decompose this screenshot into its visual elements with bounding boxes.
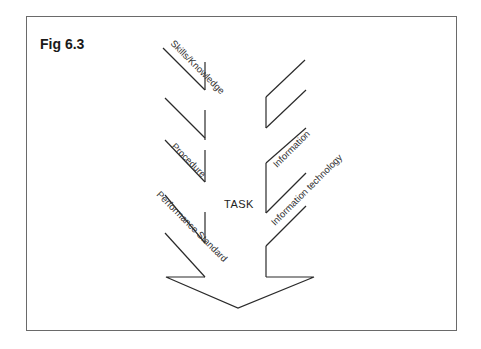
arrowhead: [166, 277, 314, 308]
arrow-lines: [163, 48, 314, 308]
label-information: Information: [271, 128, 312, 169]
task-arrow-diagram: Skills/Knowledge Procedure Performance S…: [0, 0, 481, 349]
right-diagonal-2: [266, 90, 306, 128]
right-diagonal-2b: [266, 97, 306, 128]
left-diagonal-2: [165, 98, 205, 138]
label-skills-knowledge: Skills/Knowledge: [169, 38, 228, 97]
label-performance-standard: Performance Standard: [155, 189, 230, 264]
label-procedure: Procedure: [170, 141, 209, 180]
task-label: TASK: [224, 198, 254, 210]
right-diagonal-1: [266, 60, 305, 97]
